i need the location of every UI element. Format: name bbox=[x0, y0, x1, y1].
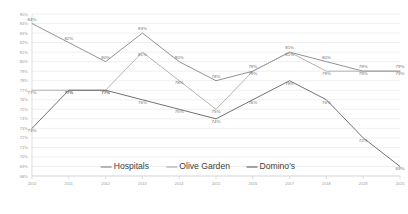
y-axis-tick-label: 83% bbox=[20, 31, 29, 36]
x-axis-tick-label: 2012 bbox=[101, 181, 110, 186]
data-label: 79% bbox=[248, 64, 257, 69]
x-axis-tick-label: 2010 bbox=[28, 181, 37, 186]
y-axis-tick-label: 72% bbox=[20, 135, 29, 140]
y-axis-tick-label: 68% bbox=[20, 174, 29, 179]
data-label: 72% bbox=[359, 138, 368, 143]
data-label: 82% bbox=[64, 36, 73, 41]
data-label: 79% bbox=[396, 64, 405, 69]
x-axis-tick-label: 2013 bbox=[138, 181, 147, 186]
data-label: 73% bbox=[28, 128, 37, 133]
data-label: 79% bbox=[359, 64, 368, 69]
x-axis-tick-label: 2017 bbox=[285, 181, 294, 186]
y-axis-tick-label: 74% bbox=[20, 116, 29, 121]
chart-legend: HospitalsOlive GardenDomino's bbox=[101, 161, 295, 171]
line-chart: 85%84%83%82%81%80%79%78%77%76%75%74%73%7… bbox=[0, 0, 408, 214]
y-axis-tick-label: 78% bbox=[20, 78, 29, 83]
data-label: 77% bbox=[28, 90, 37, 95]
y-axis-tick-label: 82% bbox=[20, 40, 29, 45]
data-label: 80% bbox=[322, 55, 331, 60]
data-label: 80% bbox=[101, 55, 110, 60]
x-axis-tick-label: 2014 bbox=[175, 181, 184, 186]
x-axis-tick-labels: 2010201120122013201420152016201720182019… bbox=[28, 181, 405, 186]
y-axis-tick-label: 76% bbox=[20, 97, 29, 102]
x-axis-tick-label: 2016 bbox=[248, 181, 257, 186]
data-label: 79% bbox=[248, 71, 257, 76]
axis-lines bbox=[32, 14, 400, 179]
data-labels-group: 84%82%80%83%80%78%79%81%80%79%79%77%77%7… bbox=[28, 17, 405, 172]
legend-label: Domino's bbox=[260, 161, 296, 171]
y-axis-tick-label: 84% bbox=[20, 21, 29, 26]
x-axis-tick-label: 2015 bbox=[212, 181, 221, 186]
y-axis-tick-label: 79% bbox=[20, 69, 29, 74]
data-label: 79% bbox=[359, 71, 368, 76]
data-label: 76% bbox=[248, 100, 257, 105]
data-label: 81% bbox=[285, 52, 294, 57]
data-label: 69% bbox=[396, 166, 405, 171]
data-label: 81% bbox=[285, 45, 294, 50]
data-label: 78% bbox=[285, 81, 294, 86]
data-label: 74% bbox=[212, 119, 221, 124]
x-axis-tick-label: 2019 bbox=[359, 181, 368, 186]
data-label: 81% bbox=[138, 52, 147, 57]
data-label: 79% bbox=[396, 71, 405, 76]
y-axis-tick-label: 80% bbox=[20, 59, 29, 64]
y-axis-tick-label: 75% bbox=[20, 107, 29, 112]
legend-label: Olive Garden bbox=[179, 161, 230, 171]
x-axis-tick-label: 2020 bbox=[396, 181, 405, 186]
data-label: 75% bbox=[175, 109, 184, 114]
data-label: 78% bbox=[175, 80, 184, 85]
chart-canvas: 85%84%83%82%81%80%79%78%77%76%75%74%73%7… bbox=[0, 0, 408, 214]
data-label: 77% bbox=[64, 90, 73, 95]
y-axis-tick-label: 71% bbox=[20, 145, 29, 150]
y-axis-tick-label: 81% bbox=[20, 50, 29, 55]
data-label: 79% bbox=[322, 71, 331, 76]
series-group bbox=[32, 24, 400, 167]
gridlines bbox=[32, 14, 400, 176]
data-label: 76% bbox=[138, 100, 147, 105]
x-axis-tick-label: 2018 bbox=[322, 181, 331, 186]
y-axis-tick-label: 70% bbox=[20, 154, 29, 159]
legend-label: Hospitals bbox=[114, 161, 149, 171]
data-label: 76% bbox=[322, 100, 331, 105]
data-label: 80% bbox=[175, 55, 184, 60]
y-axis-tick-labels: 85%84%83%82%81%80%79%78%77%76%75%74%73%7… bbox=[20, 12, 29, 179]
data-label: 83% bbox=[138, 26, 147, 31]
data-label: 75% bbox=[212, 109, 221, 114]
data-label: 77% bbox=[101, 90, 110, 95]
data-label: 78% bbox=[212, 74, 221, 79]
y-axis-tick-label: 69% bbox=[20, 164, 29, 169]
data-label: 84% bbox=[28, 17, 37, 22]
x-axis-tick-label: 2011 bbox=[65, 181, 73, 186]
